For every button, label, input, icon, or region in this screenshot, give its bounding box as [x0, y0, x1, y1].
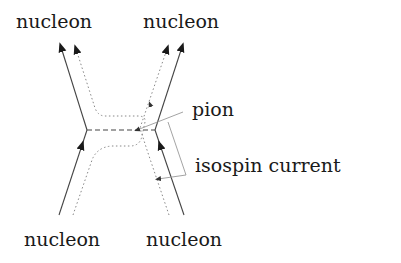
left-nucleon-line: [59, 47, 87, 215]
label-bottom-right-nucleon: nucleon: [146, 230, 222, 249]
right-isospin-flow: [140, 49, 169, 215]
label-isospin-current: isospin current: [195, 156, 341, 175]
label-pion: pion: [192, 100, 234, 119]
right-nucleon-line: [155, 47, 184, 215]
isospin-mid-arrow: [150, 104, 153, 112]
label-top-right-nucleon: nucleon: [143, 12, 219, 31]
left-isospin-flow: [73, 49, 145, 215]
label-top-left-nucleon: nucleon: [16, 12, 92, 31]
label-bottom-left-nucleon: nucleon: [24, 230, 100, 249]
feynman-diagram: [0, 0, 401, 263]
